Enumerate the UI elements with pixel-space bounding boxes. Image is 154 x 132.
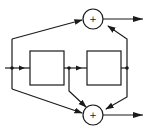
- block-diagram: + +: [0, 0, 154, 132]
- input-line: [5, 66, 30, 71]
- block-1: [30, 51, 64, 85]
- block-2: [87, 51, 121, 85]
- mid-node: [67, 66, 71, 70]
- output-top-arrow: [103, 16, 143, 22]
- output-bottom-arrow: [103, 112, 143, 118]
- sum-top: +: [83, 9, 103, 29]
- output-node: [125, 66, 129, 70]
- plus-symbol-bottom: +: [89, 110, 97, 120]
- mid-to-sum-bottom-line: [69, 68, 86, 107]
- sum-bottom: +: [83, 105, 103, 125]
- plus-symbol-top: +: [89, 14, 97, 24]
- input-node: [10, 66, 14, 70]
